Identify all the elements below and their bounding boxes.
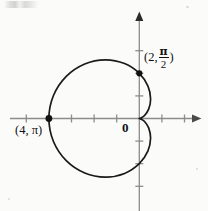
polar-cardioid-figure: 0 (2,π2) (4, π): [0, 0, 208, 211]
fraction-numerator: π: [159, 46, 169, 58]
annotation-label-4-pi: (4, π): [15, 124, 42, 137]
annotation-suffix-2-pi-over-2: ): [170, 50, 174, 64]
point-marker-2-pi-over-2: [136, 70, 142, 76]
origin-label: 0: [122, 121, 129, 134]
point-marker-4-pi: [46, 115, 53, 122]
annotation-text-4-pi: (4, π): [15, 123, 42, 137]
plot-canvas: [0, 0, 208, 211]
annotation-label-2-pi-over-2: (2,π2): [144, 46, 174, 70]
fraction-pi-over-2: π2: [159, 46, 169, 70]
fraction-denominator: 2: [160, 58, 168, 70]
annotation-prefix-2-pi-over-2: (2,: [144, 50, 158, 64]
y-axis: [135, 20, 143, 211]
x-axis: [10, 115, 193, 123]
